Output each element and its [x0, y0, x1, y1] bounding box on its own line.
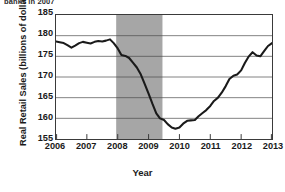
y-tick-160: 160 [38, 113, 53, 122]
chart-svg [56, 15, 272, 139]
real-retail-sales-line [56, 39, 272, 128]
y-tick-180: 180 [38, 29, 53, 38]
x-tick-2013: 2013 [263, 142, 283, 151]
x-tick-2011: 2011 [201, 142, 221, 151]
x-tick-2008: 2008 [107, 142, 127, 151]
x-tick-2012: 2012 [232, 142, 252, 151]
retail-sales-chart-figure: banks in 2007 Real Retail Sales (billion… [0, 0, 285, 192]
y-tick-170: 170 [38, 71, 53, 80]
x-axis-title: Year [0, 167, 285, 178]
x-tick-2010: 2010 [169, 142, 189, 151]
x-tick-2007: 2007 [76, 142, 96, 151]
x-axis-tick-marks [57, 134, 272, 139]
y-tick-175: 175 [38, 50, 53, 59]
y-tick-185: 185 [38, 8, 53, 17]
plot-area [55, 14, 273, 140]
y-tick-165: 165 [38, 92, 53, 101]
x-tick-2006: 2006 [45, 142, 65, 151]
y-axis-tick-labels: 155160165170175180185 [22, 12, 53, 142]
x-tick-2009: 2009 [138, 142, 158, 151]
horizontal-gridlines [56, 36, 272, 119]
x-axis-tick-labels: 20062007200820092010201120122013 [55, 142, 273, 156]
